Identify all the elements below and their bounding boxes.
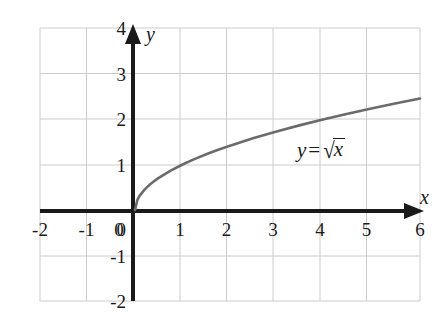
y-tick-label: 2 (117, 110, 127, 129)
y-tick-label: 3 (117, 64, 127, 83)
x-axis-label: x (420, 187, 429, 207)
y-tick-label: -2 (110, 292, 126, 311)
x-tick-label: -2 (32, 220, 48, 239)
curve-equation-annotation: y=√x (297, 139, 345, 161)
x-tick-label: -1 (79, 220, 95, 239)
x-tick-label: 4 (315, 220, 325, 239)
y-tick-label: 4 (117, 19, 127, 38)
x-tick-label: 3 (268, 220, 278, 239)
x-tick-label: 1 (175, 220, 185, 239)
y-tick-label: 1 (117, 156, 127, 175)
equation-lhs: y (297, 138, 306, 162)
figure-background (0, 0, 447, 324)
x-tick-label: 5 (362, 220, 372, 239)
coordinate-plane (0, 0, 447, 324)
x-tick-label: 2 (222, 220, 232, 239)
x-tick-label: 6 (415, 220, 425, 239)
y-axis-label: y (146, 24, 155, 44)
radicand: x (333, 138, 345, 160)
equation-operator: = (306, 138, 322, 162)
graph-figure: -2 -1 0 1 2 3 4 5 6 4 3 2 1 0 -1 -2 y x … (0, 0, 447, 324)
y-tick-label: -1 (110, 247, 126, 266)
radical-expression: √x (322, 139, 345, 161)
y-tick-label: 0 (117, 220, 127, 239)
